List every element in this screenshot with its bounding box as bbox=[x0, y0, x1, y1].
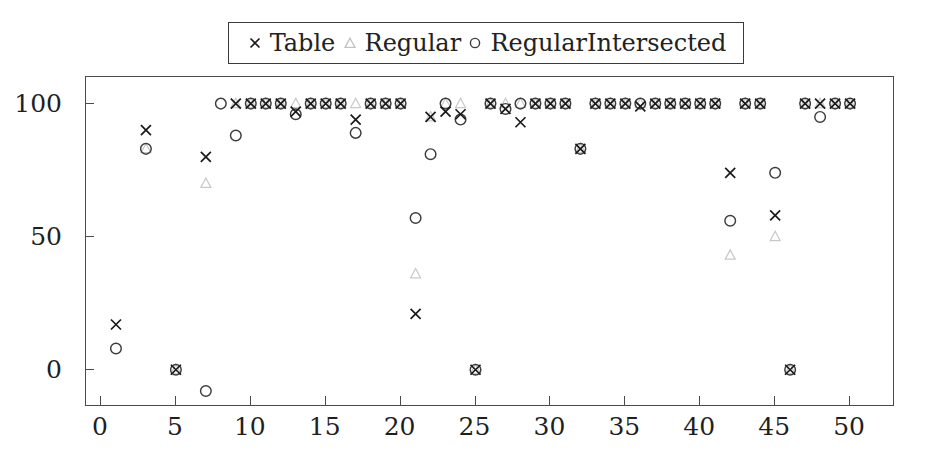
legend-entry-regularintersected: RegularIntersected bbox=[466, 31, 726, 55]
data-point-marker bbox=[201, 178, 211, 187]
chart-legend: Table Regular RegularIntersected bbox=[228, 22, 744, 64]
x-tick-mark bbox=[624, 396, 625, 405]
legend-entry-regular: Regular bbox=[341, 31, 462, 55]
series-table bbox=[111, 99, 855, 375]
data-point-marker bbox=[725, 168, 735, 178]
x-tick-label: 0 bbox=[92, 414, 108, 439]
data-point-marker bbox=[410, 213, 421, 224]
x-tick-label: 10 bbox=[234, 414, 266, 439]
data-markers bbox=[86, 77, 893, 405]
scatter-chart-figure: Table Regular RegularIntersected 050100 bbox=[0, 0, 927, 464]
y-tick-label: 100 bbox=[14, 90, 62, 115]
data-point-marker bbox=[411, 309, 421, 319]
data-point-marker bbox=[216, 98, 227, 109]
series-regularintersected bbox=[111, 98, 856, 396]
x-tick-label: 25 bbox=[459, 414, 491, 439]
y-tick-label: 50 bbox=[30, 223, 62, 248]
data-point-marker bbox=[111, 343, 122, 354]
x-tick-label: 40 bbox=[683, 414, 715, 439]
x-tick-mark bbox=[849, 396, 850, 405]
data-point-marker bbox=[456, 109, 466, 119]
x-tick-label: 35 bbox=[608, 414, 640, 439]
data-point-marker bbox=[111, 320, 121, 330]
x-tick-mark bbox=[774, 396, 775, 405]
data-point-marker bbox=[291, 98, 301, 107]
x-marker-icon bbox=[246, 34, 264, 52]
legend-label-table: Table bbox=[270, 31, 336, 55]
data-point-marker bbox=[201, 152, 211, 162]
y-axis-labels: 050100 bbox=[0, 76, 74, 406]
x-tick-mark bbox=[549, 396, 550, 405]
data-point-marker bbox=[725, 250, 735, 259]
data-point-marker bbox=[425, 149, 436, 160]
data-point-marker bbox=[231, 130, 242, 141]
data-point-marker bbox=[515, 117, 525, 127]
data-point-marker bbox=[770, 231, 780, 240]
data-point-marker bbox=[725, 215, 736, 226]
x-tick-label: 50 bbox=[833, 414, 865, 439]
x-tick-mark bbox=[100, 396, 101, 405]
x-tick-label: 45 bbox=[758, 414, 790, 439]
data-point-marker bbox=[815, 112, 826, 123]
legend-entry-table: Table bbox=[246, 31, 336, 55]
data-point-marker bbox=[350, 128, 361, 139]
data-point-marker bbox=[411, 269, 421, 278]
legend-label-regularintersected: RegularIntersected bbox=[490, 31, 726, 55]
data-point-marker bbox=[770, 168, 781, 179]
x-tick-mark bbox=[475, 396, 476, 405]
x-tick-label: 15 bbox=[309, 414, 341, 439]
x-tick-label: 5 bbox=[167, 414, 183, 439]
plot-area bbox=[86, 77, 893, 405]
y-tick-mark bbox=[85, 369, 94, 370]
triangle-marker-icon bbox=[341, 34, 359, 52]
y-tick-mark bbox=[85, 236, 94, 237]
x-tick-mark bbox=[250, 396, 251, 405]
x-tick-label: 30 bbox=[534, 414, 566, 439]
data-point-marker bbox=[500, 104, 510, 114]
data-point-marker bbox=[351, 98, 361, 107]
data-point-marker bbox=[201, 386, 212, 397]
y-tick-label: 0 bbox=[46, 356, 62, 381]
x-tick-mark bbox=[325, 396, 326, 405]
legend-label-regular: Regular bbox=[365, 31, 462, 55]
x-tick-mark bbox=[699, 396, 700, 405]
x-tick-label: 20 bbox=[384, 414, 416, 439]
y-tick-mark bbox=[85, 103, 94, 104]
plot-frame bbox=[85, 76, 894, 406]
data-point-marker bbox=[351, 115, 361, 125]
x-tick-mark bbox=[175, 396, 176, 405]
data-point-marker bbox=[635, 101, 645, 111]
data-point-marker bbox=[141, 125, 151, 135]
series-regular bbox=[141, 98, 855, 373]
data-point-marker bbox=[770, 210, 780, 220]
data-point-marker bbox=[455, 114, 466, 125]
data-point-marker bbox=[456, 98, 466, 107]
circle-marker-icon bbox=[466, 34, 484, 52]
x-tick-mark bbox=[400, 396, 401, 405]
